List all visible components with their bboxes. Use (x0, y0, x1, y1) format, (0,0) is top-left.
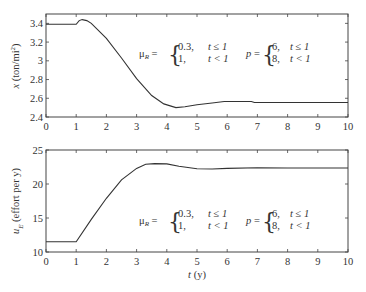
svg-text:p =: p = (245, 48, 260, 59)
svg-text:t < 1: t < 1 (208, 220, 229, 231)
bottom-x-tick-label: 6 (225, 256, 230, 267)
top-y-tick-label: 3 (38, 55, 43, 66)
top-x-tick-label: 10 (343, 121, 354, 132)
bottom-y-tick-labels: 10152025 (33, 145, 44, 258)
svg-text:t ≤ 1: t ≤ 1 (290, 208, 309, 219)
top-y-tick-label: 2.8 (30, 74, 43, 85)
svg-text:1,: 1, (178, 53, 186, 64)
svg-text:μR =: μR = (139, 215, 158, 228)
bottom-x-tick-label: 5 (194, 256, 199, 267)
bottom-x-tick-label: 1 (74, 256, 79, 267)
top-y-tick-label: 3.2 (30, 37, 43, 48)
bottom-y-tick-label: 15 (33, 213, 44, 224)
top-y-tick-label: 2.6 (30, 93, 43, 104)
svg-text:8,: 8, (272, 220, 280, 231)
top-x-tick-label: 0 (43, 121, 48, 132)
svg-text:6,: 6, (272, 208, 280, 219)
bottom-p-annotation: p = { 6, t ≤ 1 8, t < 1 (245, 208, 311, 234)
top-x-tick-label: 6 (225, 121, 230, 132)
bottom-x-tick-label: 10 (343, 256, 354, 267)
bottom-x-tick-label: 4 (164, 256, 170, 267)
svg-text:8,: 8, (272, 53, 280, 64)
top-panel-x-plot: 012345678910 2.42.62.833.23.4 x (ton/mi2… (9, 14, 353, 132)
bottom-mu-annotation: μR = { 0.3, t ≤ 1 1, t < 1 (139, 208, 229, 234)
top-x-tick-label: 5 (194, 121, 199, 132)
svg-text:t ≤ 1: t ≤ 1 (290, 41, 309, 52)
bottom-x-tick-label: 3 (134, 256, 139, 267)
top-x-tick-labels: 012345678910 (43, 121, 353, 132)
svg-text:0.3,: 0.3, (178, 208, 194, 219)
top-x-tick-label: 3 (134, 121, 139, 132)
svg-text:0.3,: 0.3, (178, 41, 194, 52)
bottom-x-tick-label: 7 (255, 256, 260, 267)
bottom-y-tick-label: 10 (33, 247, 44, 258)
top-x-tick-label: 9 (315, 121, 320, 132)
top-y-tick-label: 3.4 (30, 18, 44, 29)
svg-text:1,: 1, (178, 220, 186, 231)
bottom-x-tick-labels: 012345678910 (43, 256, 353, 267)
top-y-tick-label: 2.4 (30, 112, 44, 123)
svg-text:μR =: μR = (139, 48, 158, 61)
top-y-tick-labels: 2.42.62.833.23.4 (30, 18, 44, 123)
bottom-x-axis-label: t (y) (188, 269, 206, 281)
svg-text:t < 1: t < 1 (290, 220, 311, 231)
bottom-panel-effort-plot: 012345678910 10152025 uE (effort per y) … (10, 145, 353, 282)
bottom-plot-frame (46, 150, 348, 252)
svg-text:t ≤ 1: t ≤ 1 (208, 41, 227, 52)
bottom-y-axis-label: uE (effort per y) (10, 167, 25, 234)
top-plot-frame (46, 14, 348, 117)
svg-text:p =: p = (245, 215, 260, 226)
svg-text:6,: 6, (272, 41, 280, 52)
bottom-x-tick-label: 8 (285, 256, 290, 267)
bottom-y-tick-label: 20 (33, 179, 44, 190)
top-x-tick-label: 1 (74, 121, 79, 132)
bottom-x-tick-label: 0 (43, 256, 48, 267)
svg-text:t < 1: t < 1 (208, 53, 229, 64)
bottom-x-tick-label: 2 (104, 256, 109, 267)
top-mu-annotation: μR = { 0.3, t ≤ 1 1, t < 1 (139, 41, 229, 67)
top-x-tick-label: 8 (285, 121, 290, 132)
svg-text:t ≤ 1: t ≤ 1 (208, 208, 227, 219)
top-p-annotation: p = { 6, t ≤ 1 8, t < 1 (245, 41, 311, 67)
bottom-y-tick-label: 25 (33, 145, 44, 156)
bottom-ticks (46, 150, 348, 252)
top-y-axis-label: x (ton/mi2) (9, 43, 22, 90)
top-x-tick-label: 7 (255, 121, 260, 132)
bottom-x-tick-label: 9 (315, 256, 320, 267)
top-ticks (46, 14, 348, 117)
top-x-tick-label: 4 (164, 121, 170, 132)
top-x-tick-label: 2 (104, 121, 109, 132)
svg-text:t < 1: t < 1 (290, 53, 311, 64)
figure: 012345678910 2.42.62.833.23.4 x (ton/mi2… (0, 0, 366, 292)
